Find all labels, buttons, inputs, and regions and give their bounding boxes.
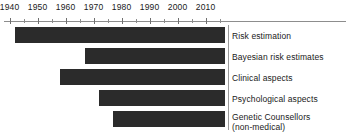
category-label-line: Genetic Counsellors bbox=[232, 112, 310, 122]
divider-segment bbox=[228, 88, 229, 109]
timeline-bar bbox=[85, 48, 225, 64]
axis-tick-label: 1940 bbox=[0, 2, 19, 12]
axis-line bbox=[4, 21, 346, 22]
timeline-bar bbox=[113, 111, 225, 127]
axis-tick-minor bbox=[52, 19, 53, 23]
axis-tick-minor bbox=[164, 19, 165, 23]
axis-tick-label: 1960 bbox=[56, 2, 76, 12]
time-axis: 19401950196019701980199020002010 bbox=[0, 0, 350, 24]
category-label-line: Psychological aspects bbox=[232, 94, 318, 104]
bar-row bbox=[0, 46, 228, 67]
divider-segment bbox=[228, 25, 229, 46]
axis-tick-minor bbox=[80, 19, 81, 23]
category-label: Risk estimation bbox=[232, 31, 350, 41]
bar-row bbox=[0, 25, 228, 46]
axis-tick-label: 1950 bbox=[28, 2, 48, 12]
divider-segment bbox=[228, 67, 229, 88]
category-label-line: Bayesian risk estimates bbox=[232, 52, 324, 62]
axis-tick-minor bbox=[24, 19, 25, 23]
category-label-line: Risk estimation bbox=[232, 31, 291, 41]
axis-tick-minor bbox=[220, 19, 221, 23]
axis-tick-label: 1990 bbox=[140, 2, 160, 12]
axis-tick-label: 2010 bbox=[196, 2, 216, 12]
bar-row bbox=[0, 109, 228, 130]
axis-tick-label: 1970 bbox=[84, 2, 104, 12]
divider-segment bbox=[228, 109, 229, 130]
category-label: Bayesian risk estimates bbox=[232, 52, 350, 62]
axis-tick-label: 1980 bbox=[112, 2, 132, 12]
category-label: Clinical aspects bbox=[232, 73, 350, 83]
category-label-line: (non-medical) bbox=[232, 122, 350, 132]
label-divider bbox=[228, 24, 229, 132]
axis-tick-minor bbox=[192, 19, 193, 23]
timeline-bar bbox=[60, 69, 225, 85]
bar-row bbox=[0, 67, 228, 88]
bar-row bbox=[0, 88, 228, 109]
category-label-column: Risk estimationBayesian risk estimatesCl… bbox=[232, 24, 350, 134]
category-label-line: Clinical aspects bbox=[232, 73, 293, 83]
timeline-chart: 19401950196019701980199020002010 Risk es… bbox=[0, 0, 350, 134]
timeline-bar bbox=[99, 90, 225, 106]
axis-tick-label: 2000 bbox=[168, 2, 188, 12]
axis-tick-minor bbox=[136, 19, 137, 23]
category-label: Genetic Counsellors(non-medical) bbox=[232, 112, 350, 132]
timeline-bar bbox=[15, 27, 225, 43]
bars-plot-area bbox=[0, 24, 228, 134]
axis-tick-minor bbox=[108, 19, 109, 23]
category-label: Psychological aspects bbox=[232, 94, 350, 104]
divider-segment bbox=[228, 46, 229, 67]
